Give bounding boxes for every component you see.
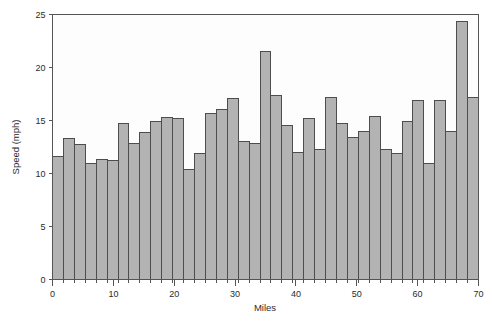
- x-tick-label: 50: [352, 289, 362, 299]
- y-tick-label: 15: [35, 116, 45, 126]
- x-axis-title: Miles: [254, 302, 276, 313]
- bar: [85, 164, 96, 280]
- bar: [96, 160, 107, 280]
- bar: [282, 126, 293, 280]
- bar: [358, 131, 369, 279]
- bar: [369, 116, 380, 279]
- x-tick-label: 30: [230, 289, 240, 299]
- bar: [162, 117, 173, 279]
- x-axis: 010203040506070: [50, 280, 484, 299]
- bar: [260, 52, 271, 280]
- bar: [446, 131, 457, 279]
- bar: [140, 132, 151, 279]
- x-tick-label: 0: [50, 289, 55, 299]
- y-tick-label: 10: [35, 169, 45, 179]
- x-tick-label: 60: [413, 289, 423, 299]
- bar: [391, 153, 402, 279]
- bar: [380, 149, 391, 279]
- bar: [271, 95, 282, 279]
- bar: [173, 118, 184, 279]
- bar: [129, 144, 140, 280]
- bar-chart: 0510152025 010203040506070 Speed (mph) M…: [0, 0, 495, 321]
- y-axis: 0510152025: [35, 10, 52, 285]
- bar: [435, 100, 446, 279]
- bar: [413, 100, 424, 279]
- y-tick-label: 0: [40, 275, 45, 285]
- bar: [249, 144, 260, 280]
- bar: [347, 137, 358, 279]
- bar: [184, 169, 195, 279]
- y-tick-label: 5: [40, 222, 45, 232]
- y-tick-label: 20: [35, 63, 45, 73]
- bar: [424, 164, 435, 280]
- bar: [151, 122, 162, 280]
- bar: [238, 142, 249, 280]
- x-tick-label: 10: [108, 289, 118, 299]
- bar: [195, 153, 206, 279]
- bar: [63, 139, 74, 280]
- y-tick-label: 25: [35, 10, 45, 20]
- chart-figure: 0510152025 010203040506070 Speed (mph) M…: [0, 0, 495, 321]
- bar: [293, 152, 304, 279]
- bar: [53, 157, 64, 280]
- bar: [227, 98, 238, 279]
- bar: [205, 113, 216, 279]
- x-tick-label: 20: [169, 289, 179, 299]
- bar: [457, 22, 468, 280]
- x-tick-label: 70: [473, 289, 483, 299]
- bar: [337, 124, 348, 280]
- bar: [468, 97, 479, 279]
- bar: [304, 118, 315, 279]
- bar: [118, 124, 129, 280]
- y-axis-title: Speed (mph): [10, 120, 21, 175]
- bar: [216, 110, 227, 280]
- bar: [315, 149, 326, 279]
- bar: [74, 145, 85, 280]
- x-tick-label: 40: [291, 289, 301, 299]
- bar: [326, 97, 337, 279]
- bar: [107, 161, 118, 280]
- bar: [402, 122, 413, 280]
